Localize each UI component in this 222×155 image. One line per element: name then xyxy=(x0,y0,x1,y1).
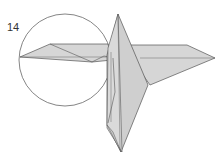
origami-diagram xyxy=(0,0,222,155)
left-wing-flap xyxy=(20,44,112,62)
